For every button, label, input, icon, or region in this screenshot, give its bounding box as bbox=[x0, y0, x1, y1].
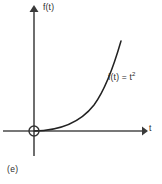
curve-equation-exponent: 2 bbox=[132, 71, 135, 77]
parabola-curve bbox=[34, 41, 121, 131]
x-axis-arrowhead bbox=[142, 127, 148, 136]
panel-label: (e) bbox=[7, 165, 18, 174]
x-axis-label: t bbox=[149, 124, 152, 133]
curve-equation-annotation: f(t) = t2 bbox=[108, 71, 135, 81]
curve-equation-base: f(t) = t bbox=[108, 72, 132, 82]
figure-container: f(t) t f(t) = t2 (e) bbox=[0, 0, 162, 184]
y-axis-arrowhead bbox=[30, 5, 39, 12]
y-axis-label: f(t) bbox=[43, 3, 54, 12]
plot-canvas bbox=[0, 0, 162, 184]
